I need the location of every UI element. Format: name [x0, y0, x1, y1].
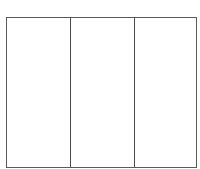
panel-left — [7, 18, 71, 167]
panel-right — [135, 18, 196, 167]
panel-middle — [71, 18, 135, 167]
three-panel-frame — [6, 17, 197, 168]
